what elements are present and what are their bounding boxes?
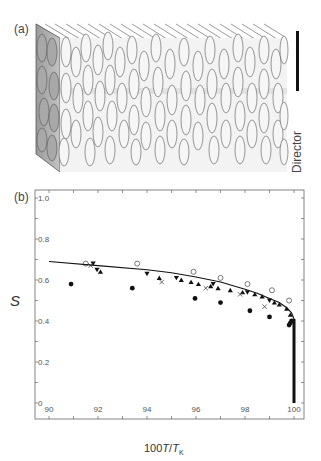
point-filled-circle xyxy=(218,300,223,305)
point-triangle-down xyxy=(94,268,99,272)
y-tick-label: 0.6 xyxy=(38,276,50,285)
point-open-circle xyxy=(269,288,274,293)
point-open-circle xyxy=(245,282,250,287)
point-triangle-down xyxy=(144,272,149,276)
y-tick-label: 0.4 xyxy=(38,317,50,326)
ellipsoid-box-illustration xyxy=(0,0,321,180)
point-filled-circle xyxy=(69,282,74,287)
point-filled-circle xyxy=(130,286,135,291)
director-label: Director xyxy=(290,127,304,177)
point-triangle-up xyxy=(157,276,162,280)
point-triangle-up xyxy=(189,280,194,284)
x-tick-label: 90 xyxy=(45,405,54,414)
point-triangle-up xyxy=(228,288,233,292)
top-face-lines xyxy=(36,24,285,40)
x-tick-label: 100 xyxy=(287,405,301,414)
point-open-circle xyxy=(191,269,196,274)
order-parameter-plot: 00.20.40.60.81.09092949698100 xyxy=(0,180,321,461)
point-triangle-down xyxy=(174,276,179,280)
x-tick-label: 96 xyxy=(192,405,201,414)
x-tick-label: 94 xyxy=(143,405,152,414)
x-tick-label: 92 xyxy=(94,405,103,414)
plot-frame xyxy=(35,190,304,419)
point-triangle-up xyxy=(98,269,103,273)
point-open-circle xyxy=(135,261,140,266)
y-tick-label: 0.2 xyxy=(38,358,50,367)
point-filled-circle xyxy=(267,315,272,320)
point-triangle-up xyxy=(179,278,184,282)
y-tick-label: 1.0 xyxy=(38,194,50,203)
director-bar xyxy=(296,31,299,91)
panel-a-schematic: (a) xyxy=(0,0,321,180)
point-filled-circle xyxy=(248,308,253,313)
fit-curve xyxy=(49,262,294,403)
y-tick-label: 0.8 xyxy=(38,235,50,244)
y-axis-label: S xyxy=(10,292,20,309)
x-axis-label: 100T/TK xyxy=(144,442,184,456)
point-open-circle xyxy=(218,275,223,280)
point-open-circle xyxy=(83,261,88,266)
point-open-circle xyxy=(287,298,292,303)
point-triangle-up xyxy=(196,282,201,286)
transition-drop xyxy=(293,319,296,403)
point-triangle-up xyxy=(215,286,220,290)
panel-a-label: (a) xyxy=(14,22,29,36)
panel-b-label: (b) xyxy=(14,190,29,204)
y-tick-label: 0 xyxy=(38,399,43,408)
panel-b-chart: (b) 00.20.40.60.81.09092949698100 S 100T… xyxy=(0,180,321,461)
x-tick-label: 98 xyxy=(241,405,250,414)
point-filled-circle xyxy=(193,296,198,301)
